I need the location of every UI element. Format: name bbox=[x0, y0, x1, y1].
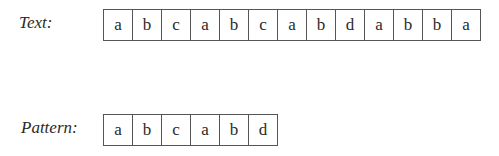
pattern-cell: d bbox=[249, 115, 277, 145]
text-cell: a bbox=[104, 10, 133, 40]
text-cell: a bbox=[452, 10, 480, 40]
text-cell: b bbox=[133, 10, 162, 40]
text-cell: c bbox=[162, 10, 191, 40]
text-cell: d bbox=[336, 10, 365, 40]
pattern-array: a b c a b d bbox=[103, 114, 278, 146]
text-cell: c bbox=[249, 10, 278, 40]
pattern-cell: b bbox=[220, 115, 249, 145]
text-cell: b bbox=[307, 10, 336, 40]
text-label: Text: bbox=[19, 13, 52, 33]
pattern-cell: c bbox=[162, 115, 191, 145]
text-cell: b bbox=[423, 10, 452, 40]
pattern-cell: a bbox=[191, 115, 220, 145]
text-cell: a bbox=[191, 10, 220, 40]
pattern-cell: b bbox=[133, 115, 162, 145]
text-cell: b bbox=[220, 10, 249, 40]
text-cell: b bbox=[394, 10, 423, 40]
text-cell: a bbox=[278, 10, 307, 40]
pattern-cell: a bbox=[104, 115, 133, 145]
pattern-label: Pattern: bbox=[21, 118, 78, 138]
text-cell: a bbox=[365, 10, 394, 40]
text-array: a b c a b c a b d a b b a bbox=[103, 9, 481, 41]
